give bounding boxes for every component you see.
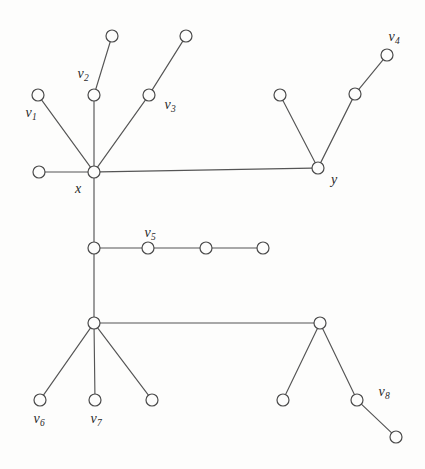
graph-node[interactable]	[257, 242, 269, 254]
graph-node[interactable]	[88, 317, 100, 329]
graph-node[interactable]	[88, 89, 100, 101]
vertex-label-v1: v1	[26, 106, 37, 120]
graph-node[interactable]	[277, 394, 289, 406]
vertex-label-base: v	[389, 29, 395, 44]
vertex-label-subscript: 3	[171, 104, 176, 114]
graph-edge	[321, 99, 353, 162]
graph-node[interactable]	[142, 242, 154, 254]
vertex-label-subscript: 5	[151, 232, 156, 242]
graph-edge	[42, 100, 91, 167]
nodes-group	[32, 30, 402, 443]
graph-node[interactable]	[312, 162, 324, 174]
vertex-label-base: v	[165, 97, 171, 112]
graph-edge	[43, 328, 90, 395]
vertex-label-v2: v2	[78, 67, 89, 81]
graph-svg	[0, 0, 425, 469]
vertex-label-base: v	[78, 66, 84, 81]
vertex-label-subscript: 1	[32, 112, 37, 122]
graph-edge	[283, 100, 315, 162]
vertex-label-v7: v7	[91, 412, 102, 426]
vertex-label-subscript: 4	[395, 36, 400, 46]
vertex-label-subscript: 6	[40, 418, 45, 428]
graph-edge	[97, 100, 145, 167]
graph-edge	[361, 404, 391, 433]
graph-node[interactable]	[143, 89, 155, 101]
vertex-label-x: x	[75, 182, 81, 196]
graph-edge	[96, 42, 111, 90]
graph-node[interactable]	[32, 89, 44, 101]
graph-edge	[323, 328, 355, 394]
vertex-label-base: v	[379, 384, 385, 399]
vertex-label-subscript: 8	[385, 391, 390, 401]
vertex-label-base: x	[75, 181, 81, 196]
graph-edge	[359, 60, 383, 90]
graph-edge	[100, 168, 312, 172]
graph-edge	[94, 329, 95, 394]
vertex-label-subscript: 2	[84, 73, 89, 83]
graph-node[interactable]	[88, 166, 100, 178]
vertex-label-v3: v3	[165, 98, 176, 112]
vertex-label-base: v	[91, 411, 97, 426]
graph-node[interactable]	[390, 431, 402, 443]
graph-edge	[286, 328, 318, 394]
graph-node[interactable]	[88, 242, 100, 254]
graph-edge	[152, 41, 183, 90]
vertex-label-base: v	[145, 225, 151, 240]
vertex-label-v4: v4	[389, 30, 400, 44]
graph-node[interactable]	[34, 394, 46, 406]
graph-node[interactable]	[89, 394, 101, 406]
graph-node[interactable]	[106, 30, 118, 42]
graph-node[interactable]	[381, 49, 393, 61]
graph-node[interactable]	[314, 317, 326, 329]
vertex-label-v6: v6	[34, 412, 45, 426]
vertex-label-base: y	[331, 172, 337, 187]
graph-node[interactable]	[351, 394, 363, 406]
vertex-label-base: v	[26, 105, 32, 120]
graph-node[interactable]	[146, 394, 158, 406]
graph-node[interactable]	[349, 88, 361, 100]
vertex-label-v5: v5	[145, 226, 156, 240]
vertex-label-base: v	[34, 411, 40, 426]
vertex-label-y: y	[331, 173, 337, 187]
vertex-label-subscript: 7	[97, 418, 102, 428]
graph-node[interactable]	[200, 242, 212, 254]
vertex-label-v8: v8	[379, 385, 390, 399]
graph-diagram-canvas: v1v2v3v4v5v6v7v8xy	[0, 0, 425, 469]
graph-node[interactable]	[180, 30, 192, 42]
graph-node[interactable]	[33, 166, 45, 178]
graph-edge	[98, 328, 149, 395]
graph-node[interactable]	[274, 89, 286, 101]
